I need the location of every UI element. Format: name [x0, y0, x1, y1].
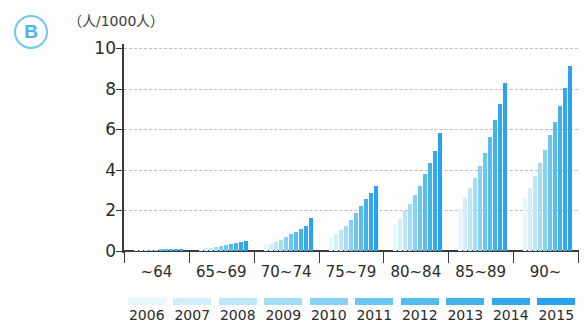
bar [463, 198, 467, 251]
y-axis-tick-mark [116, 170, 123, 171]
bar [458, 208, 462, 251]
legend-label: 2010 [306, 307, 352, 323]
x-axis-group-tick [513, 252, 514, 263]
x-axis-group-label: 70~74 [261, 263, 312, 281]
legend-item[interactable]: 2008 [215, 298, 261, 323]
legend-item[interactable]: 2011 [351, 298, 397, 323]
bar [523, 198, 527, 251]
y-axis-tick-mark [116, 251, 123, 252]
bar [369, 193, 373, 251]
legend-swatch [310, 298, 348, 305]
bar [144, 250, 148, 251]
legend-swatch [264, 298, 302, 305]
bar [423, 174, 427, 251]
legend-label: 2015 [533, 307, 579, 323]
bar [279, 240, 283, 251]
x-axis-group-label: 75~79 [326, 263, 377, 281]
legend-swatch [355, 298, 393, 305]
bar [568, 66, 572, 251]
bar [284, 237, 288, 251]
x-axis-group-label: 90~ [530, 263, 562, 281]
bar [304, 226, 308, 251]
legend-swatch [173, 298, 211, 305]
bar [503, 83, 507, 251]
bar [239, 242, 243, 251]
bar [329, 237, 333, 251]
legend-swatch [219, 298, 257, 305]
legend-item[interactable]: 2009 [260, 298, 306, 323]
bar [558, 106, 562, 251]
y-axis-tick-mark [116, 48, 123, 49]
legend-label: 2008 [215, 307, 261, 323]
legend-label: 2007 [169, 307, 215, 323]
y-axis-tick-labels: 0246810 [78, 0, 116, 334]
bar [214, 247, 218, 251]
bar [538, 163, 542, 251]
legend-item[interactable]: 2013 [442, 298, 488, 323]
bar [403, 211, 407, 251]
legend-swatch [492, 298, 530, 305]
bar [154, 250, 158, 251]
bar [219, 246, 223, 251]
legend-item[interactable]: 2006 [124, 298, 170, 323]
bar [483, 153, 487, 251]
bar [528, 188, 532, 251]
bar [294, 232, 298, 251]
x-axis-group-tick [448, 252, 449, 263]
legend-swatch [401, 298, 439, 305]
bar [309, 218, 313, 251]
x-axis-group-tick [578, 252, 579, 263]
chart-page: B （人/1000人） 0246810 20062007200820092010… [0, 0, 587, 334]
bar [339, 230, 343, 251]
y-axis-tick-label: 0 [105, 241, 116, 261]
bar [498, 104, 502, 251]
plot-area [124, 48, 578, 251]
legend-label: 2013 [442, 307, 488, 323]
y-axis-tick-label: 4 [105, 160, 116, 180]
bar-group [458, 48, 507, 251]
x-axis-group-label: 65~69 [196, 263, 247, 281]
bar [179, 249, 183, 251]
bar [374, 186, 378, 251]
bar-group [134, 48, 183, 251]
bar [478, 166, 482, 251]
x-axis-group-tick [124, 252, 125, 263]
legend-item[interactable]: 2014 [488, 298, 534, 323]
legend-label: 2009 [260, 307, 306, 323]
bar [398, 219, 402, 251]
legend-item[interactable]: 2012 [397, 298, 443, 323]
bar [169, 249, 173, 251]
bar [344, 226, 348, 251]
bar [548, 135, 552, 251]
bar-group [329, 48, 378, 251]
x-axis-group-label: 85~89 [455, 263, 506, 281]
bar [354, 213, 358, 251]
bar [364, 199, 368, 251]
bar [468, 188, 472, 251]
y-axis-tick-label: 10 [94, 38, 116, 58]
bar [234, 243, 238, 251]
bar [393, 224, 397, 251]
bar [299, 229, 303, 251]
bar [334, 234, 338, 251]
x-axis-group-label: ~64 [141, 263, 173, 281]
bar-group [523, 48, 572, 251]
bar-group [199, 48, 248, 251]
legend-item[interactable]: 2007 [169, 298, 215, 323]
bar [289, 234, 293, 251]
bar [349, 220, 353, 251]
chart-legend: 2006200720082009201020112012201320142015 [124, 298, 579, 332]
x-axis-group-tick [383, 252, 384, 263]
legend-item[interactable]: 2015 [533, 298, 579, 323]
bar [264, 245, 268, 251]
bar [543, 150, 547, 252]
bar [159, 249, 163, 251]
legend-item[interactable]: 2010 [306, 298, 352, 323]
legend-swatch [537, 298, 575, 305]
bar [473, 178, 477, 251]
bar [134, 250, 138, 251]
y-axis-tick-mark [116, 210, 123, 211]
bar [244, 241, 248, 251]
bar [488, 137, 492, 251]
bar [224, 245, 228, 251]
